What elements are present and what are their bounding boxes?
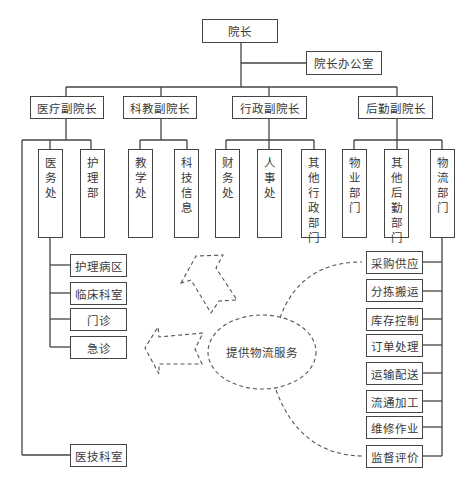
president-office-label: 院长办公室 (314, 55, 374, 71)
dept-teaching: 教学处 (128, 149, 153, 238)
dept-label-char: 医 (39, 156, 62, 171)
func-label: 库存控制 (371, 312, 419, 328)
dept-label-char: 财 (216, 156, 239, 171)
unit-nursing-ward: 护理病区 (70, 254, 127, 277)
dept-label-char: 学 (129, 171, 152, 186)
dept-label-char: 业 (343, 171, 366, 186)
unit-label: 临床科室 (75, 286, 123, 302)
func-order-processing: 订单处理 (366, 334, 423, 357)
dept-label-char: 处 (39, 186, 62, 201)
func-sorting: 分拣搬运 (366, 279, 423, 302)
dept-label-char: 务 (39, 171, 62, 186)
func-label: 维修作业 (371, 420, 419, 436)
unit-label: 门诊 (87, 312, 111, 328)
func-label: 运输配送 (371, 366, 419, 382)
unit-clinical-dept: 临床科室 (70, 282, 127, 305)
unit-label: 医技科室 (75, 448, 123, 464)
dept-hr: 人事处 (257, 149, 282, 238)
unit-label: 急诊 (87, 340, 111, 356)
dept-label-char: 部 (385, 216, 408, 231)
func-procurement: 采购供应 (366, 251, 423, 274)
service-ellipse-label: 提供物流服务 (226, 344, 298, 360)
dept-label-char: 勤 (385, 201, 408, 216)
vp-logistics-box: 后勤副院长 (358, 96, 433, 119)
vp-label: 科教副院长 (130, 100, 190, 116)
dept-label-char: 物 (343, 156, 366, 171)
dept-label-char: 门 (343, 201, 366, 216)
vp-administration-box: 行政副院长 (232, 96, 307, 119)
unit-emergency: 急诊 (70, 336, 127, 359)
dept-nursing: 护理部 (80, 149, 105, 238)
vp-label: 行政副院长 (240, 100, 300, 116)
dept-label-char: 其 (385, 156, 408, 171)
dept-label-char: 门 (431, 201, 454, 216)
dept-label-char: 他 (385, 171, 408, 186)
dept-label-char: 务 (216, 171, 239, 186)
dept-label-char: 理 (81, 171, 104, 186)
dept-label-char: 处 (216, 186, 239, 201)
vp-education-box: 科教副院长 (123, 96, 197, 119)
dept-logistics: 物流部门 (430, 149, 455, 238)
dept-label-char: 科 (175, 156, 198, 171)
president-label: 院长 (228, 23, 252, 39)
dept-property: 物业部门 (342, 149, 367, 238)
president-box: 院长 (202, 19, 278, 43)
dept-finance: 财务处 (215, 149, 240, 238)
unit-medtech: 医技科室 (70, 444, 127, 467)
dept-label-char: 事 (258, 171, 281, 186)
dept-label-char: 流 (431, 171, 454, 186)
dept-label-char: 技 (175, 171, 198, 186)
func-maintenance: 维修作业 (366, 416, 423, 439)
dept-label-char: 门 (385, 231, 408, 246)
func-inventory: 库存控制 (366, 308, 423, 331)
vp-medical-box: 医疗副院长 (30, 96, 104, 119)
dept-label-char: 息 (175, 201, 198, 216)
vp-label: 医疗副院长 (37, 100, 97, 116)
dept-label-char: 人 (258, 156, 281, 171)
dept-label-char: 他 (302, 171, 325, 186)
hospital-org-chart: 院长 院长办公室 医疗副院长 科教副院长 行政副院长 后勤副院长 医务处 护理部… (0, 0, 471, 488)
dept-sci-tech-info: 科技信息 (174, 149, 199, 238)
president-office-box: 院长办公室 (306, 51, 382, 75)
dept-label-char: 门 (302, 231, 325, 246)
dept-other-logistics: 其他后勤部门 (384, 149, 409, 238)
dept-label-char: 教 (129, 156, 152, 171)
func-supervision: 监督评价 (366, 445, 423, 468)
dept-label-char: 部 (343, 186, 366, 201)
func-label: 监督评价 (371, 449, 419, 465)
dept-label-char: 政 (302, 201, 325, 216)
func-processing: 流通加工 (366, 390, 423, 413)
vp-label: 后勤副院长 (366, 100, 426, 116)
dept-label-char: 后 (385, 186, 408, 201)
dept-label-char: 行 (302, 186, 325, 201)
dept-label-char: 处 (129, 186, 152, 201)
dept-label-char: 部 (431, 186, 454, 201)
dept-label-char: 部 (81, 186, 104, 201)
dept-label-char: 其 (302, 156, 325, 171)
func-label: 订单处理 (371, 338, 419, 354)
func-transport: 运输配送 (366, 362, 423, 385)
dept-label-char: 信 (175, 186, 198, 201)
func-label: 采购供应 (371, 255, 419, 271)
dept-label-char: 物 (431, 156, 454, 171)
unit-label: 护理病区 (75, 258, 123, 274)
dept-label-char: 护 (81, 156, 104, 171)
dept-label-char: 处 (258, 186, 281, 201)
func-label: 分拣搬运 (371, 283, 419, 299)
dept-label-char: 部 (302, 216, 325, 231)
dept-medical-affairs: 医务处 (38, 149, 63, 238)
unit-outpatient: 门诊 (70, 308, 127, 331)
dept-other-admin: 其他行政部门 (301, 149, 326, 238)
func-label: 流通加工 (371, 394, 419, 410)
